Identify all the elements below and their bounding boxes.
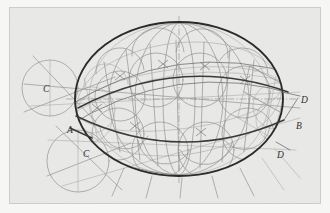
label-d-upper-right: D xyxy=(300,95,308,105)
geometry-drawing: C A C D B D xyxy=(0,0,330,213)
drawing-canvas: C A C D B D xyxy=(0,0,330,213)
label-a: A xyxy=(66,125,73,135)
label-b: B xyxy=(296,121,302,131)
label-d-lower-right: D xyxy=(276,150,284,160)
label-c-upper-left: C xyxy=(43,84,50,94)
label-c-lower-left: C xyxy=(83,149,90,159)
